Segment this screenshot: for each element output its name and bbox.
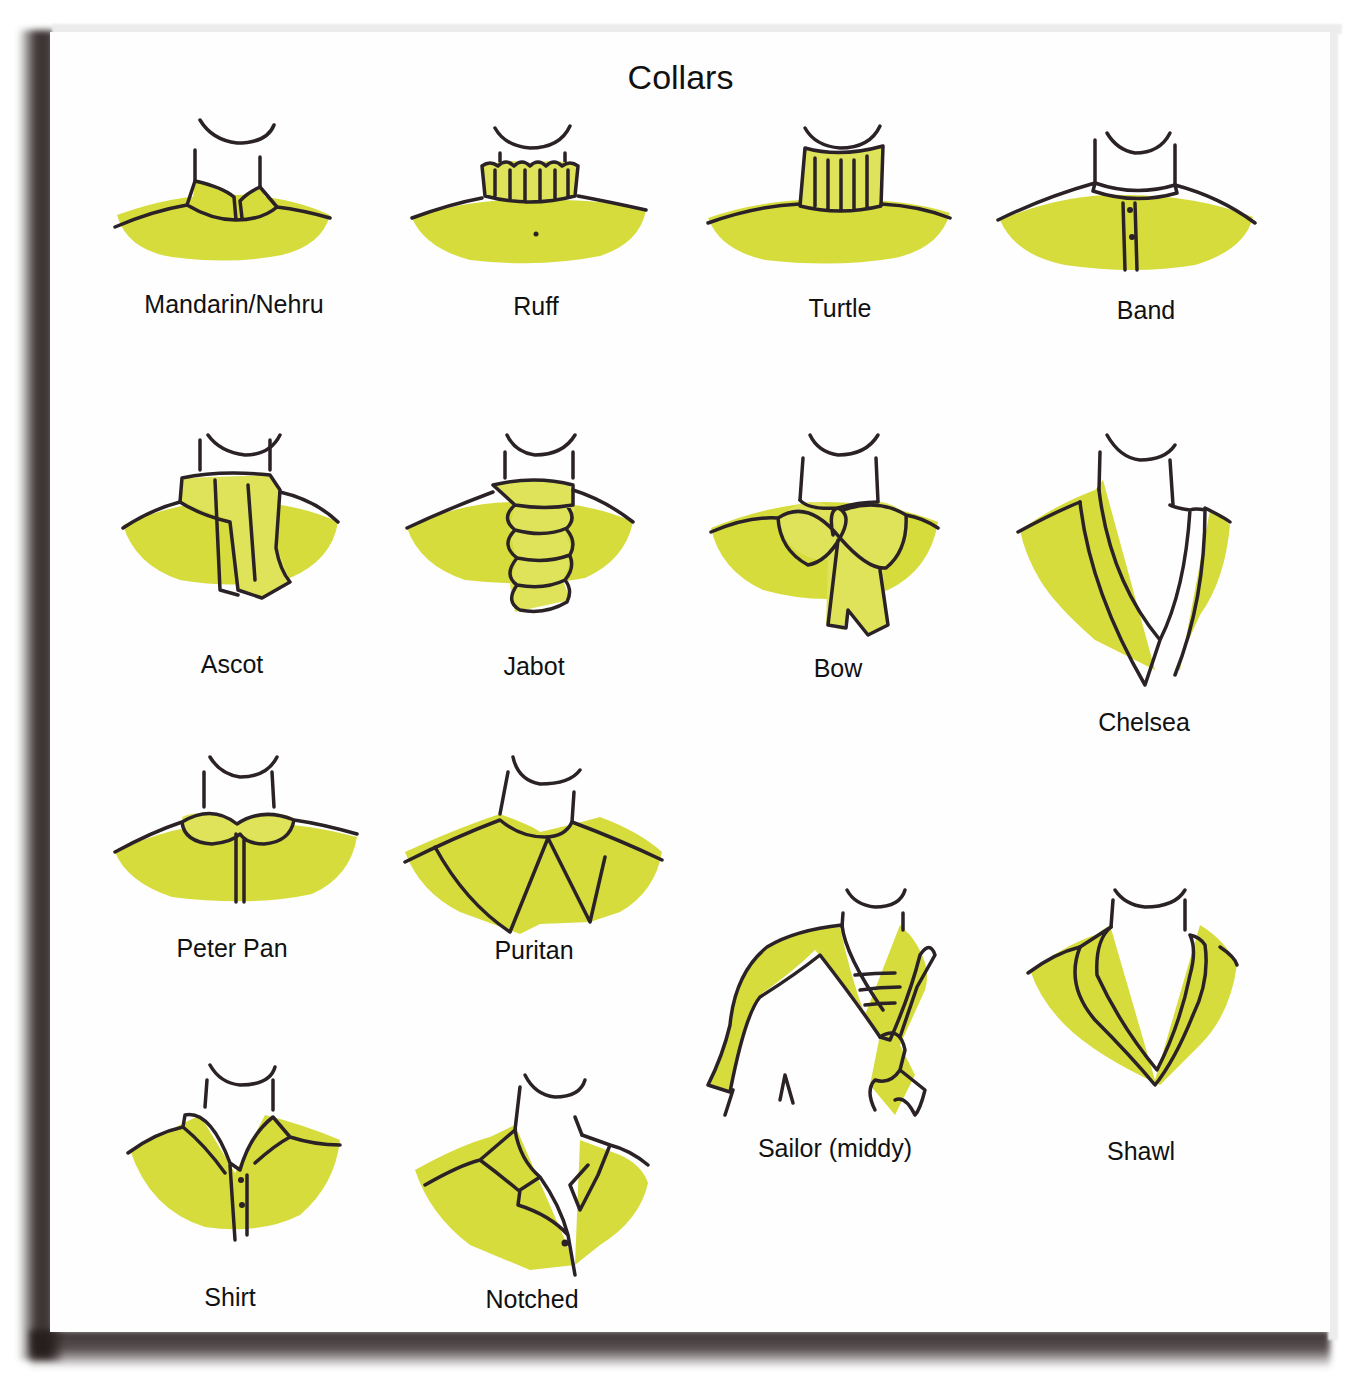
notched-collar-illustration [410, 1065, 655, 1275]
collar-chelsea [1015, 430, 1235, 695]
shawl-collar-illustration [1025, 885, 1240, 1090]
collar-label-notched: Notched [485, 1285, 578, 1314]
collar-label-band: Band [1117, 296, 1175, 325]
collar-label-sailor: Sailor (middy) [758, 1134, 912, 1163]
collar-label-ascot: Ascot [201, 650, 264, 679]
collar-ascot [120, 430, 342, 605]
chelsea-collar-illustration [1015, 430, 1235, 695]
jabot-collar-illustration [405, 430, 635, 620]
collar-sailor [705, 875, 945, 1120]
mandarin-collar-illustration [112, 115, 337, 265]
collar-label-jabot: Jabot [503, 652, 564, 681]
collar-label-puritan: Puritan [494, 936, 573, 965]
ascot-collar-illustration [120, 430, 342, 605]
card-shadow-bottom [30, 1330, 1330, 1368]
collar-label-chelsea: Chelsea [1098, 708, 1190, 737]
collar-shawl [1025, 885, 1240, 1090]
bow-collar-illustration [708, 430, 943, 640]
collar-label-peter-pan: Peter Pan [176, 934, 287, 963]
page-title: Collars [0, 58, 1361, 97]
turtle-collar-illustration [705, 118, 955, 268]
collar-label-bow: Bow [814, 654, 863, 683]
peter-pan-collar-illustration [112, 752, 362, 907]
collar-turtle [705, 118, 955, 268]
collar-label-mandarin: Mandarin/Nehru [144, 290, 323, 319]
collar-peter-pan [112, 752, 362, 907]
collar-label-ruff: Ruff [513, 292, 558, 321]
puritan-collar-illustration [400, 752, 665, 927]
ruff-collar-illustration [410, 118, 650, 268]
collar-shirt [125, 1055, 345, 1240]
collar-ruff [410, 118, 650, 268]
collar-mandarin [112, 115, 337, 265]
collar-bow [708, 430, 943, 640]
collar-label-shawl: Shawl [1107, 1137, 1175, 1166]
collar-label-turtle: Turtle [809, 294, 872, 323]
collar-notched [410, 1065, 655, 1275]
collar-jabot [405, 430, 635, 620]
band-collar-illustration [995, 125, 1257, 275]
collar-band [995, 125, 1257, 275]
sailor-collar-illustration [705, 875, 945, 1120]
collar-puritan [400, 752, 665, 927]
collar-label-shirt: Shirt [204, 1283, 255, 1312]
shirt-collar-illustration [125, 1055, 345, 1240]
